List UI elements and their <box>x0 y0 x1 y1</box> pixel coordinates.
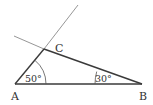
line-bc-extension <box>14 36 44 49</box>
angle-label-b: 30° <box>95 73 112 84</box>
vertex-label-b: B <box>139 90 147 103</box>
angle-label-a: 50° <box>25 73 42 84</box>
triangle-diagram: 50° 30° A B C <box>0 0 153 105</box>
vertex-label-a: A <box>10 90 20 103</box>
vertex-label-c: C <box>55 42 63 55</box>
